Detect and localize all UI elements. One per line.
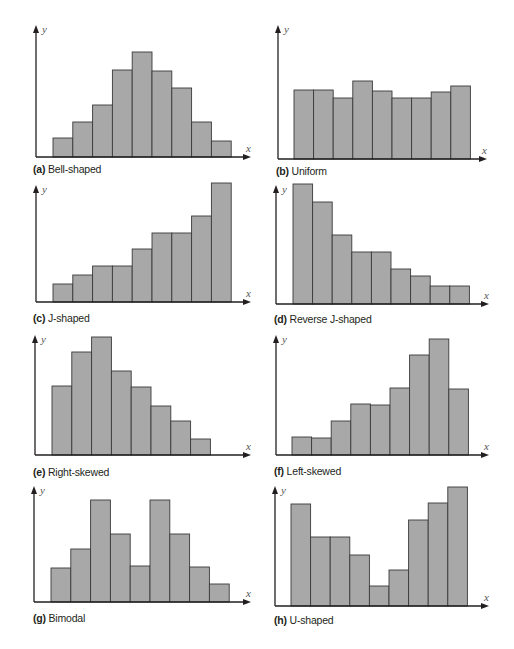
histogram-bar [330,537,350,606]
histogram-bar [172,233,192,302]
histogram-bar [131,387,151,455]
histogram-bar [294,90,314,159]
histogram-bar [369,586,389,606]
caption-title: U-shaped [290,614,334,626]
histogram-bar [150,500,170,602]
histogram-bar [151,406,171,455]
histogram-bar [112,70,132,157]
histogram-bar [111,371,131,455]
x-axis-label: x [245,440,251,452]
x-axis-label: x [245,287,251,299]
panel-caption: (f) Left-skewed [274,465,341,477]
histogram-bar [93,105,113,157]
panel-caption: (g) Bimodal [33,612,85,624]
x-axis-arrow-icon [243,154,251,160]
histogram-bar [92,337,112,455]
y-axis-arrow-icon [32,335,38,343]
y-axis-arrow-icon [275,25,281,33]
histogram-bar [311,537,331,606]
histogram-bar [353,81,373,159]
y-axis-label: y [40,333,46,345]
histogram-panel-f: yx (f) Left-skewed [257,333,497,493]
histogram-panel-d: yx (d) Reverse J-shaped [257,180,497,340]
histogram-panel-c: yx (c) J-shaped [0,180,240,340]
histogram-bar [112,266,132,302]
y-axis-label: y [39,484,45,496]
histogram-bar [191,439,211,455]
x-axis-arrow-icon [481,452,489,458]
histogram-bar [314,90,334,159]
caption-title: J-shaped [48,312,90,324]
histogram-panel-a: yx (a) Bell-shaped [0,20,240,180]
histogram-bar [351,404,371,455]
histogram-bar [293,184,313,304]
histogram-bar [171,421,191,455]
histogram-bar [211,141,231,157]
histogram-bar [371,252,391,304]
histogram-chart: yx [0,20,257,165]
histogram-bar [448,487,468,606]
x-axis-arrow-icon [479,156,487,162]
histogram-bar [392,98,412,159]
histogram-bar [93,266,113,302]
histogram-bar [312,438,332,455]
histogram-bar [211,183,231,302]
histogram-bar [333,98,353,159]
histogram-chart: yx [257,333,514,478]
histogram-bar [291,504,311,606]
histogram-bar [72,352,92,455]
histogram-bar [391,269,411,304]
histogram-bar [192,216,212,302]
y-axis-arrow-icon [33,185,39,193]
caption-title: Uniform [292,165,327,177]
histogram-bar [53,138,73,157]
histogram-bar [292,437,312,455]
x-axis-arrow-icon [481,603,489,609]
caption-title: Bell-shaped [48,163,101,175]
histogram-chart: yx [257,20,514,165]
histogram-bar [412,98,432,159]
x-axis-arrow-icon [243,452,251,458]
histogram-bar [410,355,430,455]
histogram-bar [331,421,351,455]
x-axis-label: x [245,587,251,599]
y-axis-label: y [41,23,47,35]
histogram-bar [152,233,172,302]
histogram-bar [372,91,392,159]
histogram-bar [52,386,72,455]
y-axis-label: y [281,183,287,195]
caption-letter: (d) [274,313,287,325]
y-axis-arrow-icon [272,486,278,494]
histogram-bar [451,86,471,159]
histogram-bar [71,549,91,602]
histogram-chart: yx [0,333,257,478]
caption-title: Bimodal [49,612,86,624]
caption-letter: (f) [274,465,284,477]
histogram-bar [428,503,448,606]
x-axis-label: x [245,142,251,154]
caption-title: Left-skewed [287,465,341,477]
histogram-bar [209,584,229,602]
histogram-bar [389,570,409,606]
histogram-chart: yx [0,484,257,629]
caption-letter: (a) [33,163,45,175]
histogram-bar [53,284,73,302]
panel-caption: (h) U-shaped [274,614,333,626]
histogram-bar [73,275,93,302]
histogram-bar [409,520,429,606]
panel-caption: (e) Right-skewed [33,466,109,478]
histogram-panel-g: yx (g) Bimodal [0,484,240,644]
y-axis-label: y [283,23,289,35]
y-axis-label: y [280,484,286,496]
x-axis-label: x [481,144,487,156]
histogram-bar [431,92,451,159]
histogram-bar [73,122,93,157]
histogram-bar [192,122,212,157]
x-axis-arrow-icon [243,599,251,605]
histogram-bar [51,568,71,602]
caption-letter: (c) [33,312,45,324]
panel-caption: (d) Reverse J-shaped [274,313,372,325]
caption-letter: (h) [274,614,287,626]
histogram-bar [350,555,370,606]
y-axis-arrow-icon [273,335,279,343]
